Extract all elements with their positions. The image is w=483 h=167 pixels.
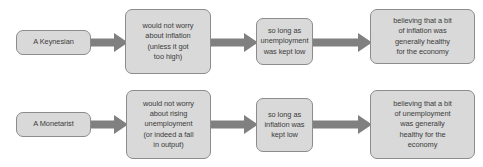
arrow-keynesian-1 [90, 33, 128, 52]
node-keynesian-step-3-label: believing that a bit of inflation was ge… [374, 16, 471, 57]
node-keynesian-step-1[interactable]: would not worry about inflation (unless … [125, 9, 211, 74]
node-keynesian-actor-label: A Keynesian [20, 37, 87, 47]
node-monetarist-actor[interactable]: A Monetarist [16, 112, 91, 137]
node-monetarist-step-1[interactable]: would not worry about rising unemploymen… [126, 90, 211, 159]
arrow-monetarist-2 [210, 115, 258, 134]
arrow-keynesian-3 [312, 33, 372, 52]
arrow-keynesian-2 [210, 33, 258, 52]
node-keynesian-step-3[interactable]: believing that a bit of inflation was ge… [370, 9, 475, 64]
node-keynesian-step-2[interactable]: so long as unemployment was kept low [256, 18, 313, 65]
arrow-monetarist-3 [312, 115, 372, 134]
node-monetarist-actor-label: A Monetarist [20, 119, 87, 129]
flowchart-diagram: A Keynesian would not worry about inflat… [0, 0, 483, 167]
node-monetarist-step-2-label: so long as inflation was kept low [260, 110, 309, 141]
node-keynesian-actor[interactable]: A Keynesian [16, 30, 91, 55]
node-keynesian-step-1-label: would not worry about inflation (unless … [129, 21, 207, 62]
node-monetarist-step-2[interactable]: so long as inflation was kept low [256, 98, 313, 152]
arrow-monetarist-1 [90, 115, 128, 134]
node-keynesian-step-2-label: so long as unemployment was kept low [260, 26, 309, 57]
node-monetarist-step-3[interactable]: believing that a bit of unemployment was… [370, 90, 475, 159]
node-monetarist-step-1-label: would not worry about rising unemploymen… [130, 99, 207, 150]
node-monetarist-step-3-label: believing that a bit of unemployment was… [374, 99, 471, 150]
